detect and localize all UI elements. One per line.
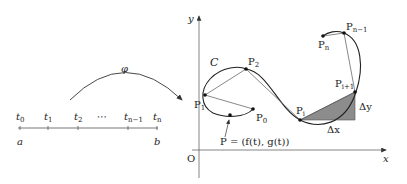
x-axis-label: x	[383, 153, 389, 164]
y-axis-label: y	[187, 13, 194, 24]
interval-end-label: b	[154, 136, 160, 147]
point-pi1-label: Pi+1	[335, 78, 354, 91]
parametric-curve-diagram: t0t1t2⋯tn−1tn a b φ y x O P0P1P2PiPi+1Pn…	[0, 0, 407, 184]
point-pi-label: Pi	[296, 105, 306, 118]
point-pn-label: Pn	[318, 39, 330, 52]
point-pn1-label: Pn−1	[346, 21, 368, 34]
parameter-tick-label: t0	[16, 111, 25, 124]
curve-label: C	[210, 56, 219, 69]
parameter-tick-label: ⋯	[96, 111, 106, 122]
parameter-tick-label: t2	[74, 111, 83, 124]
delta-x-label: Δx	[327, 124, 340, 135]
parameter-tick-label: tn	[153, 111, 162, 124]
mapping-label: φ	[121, 63, 128, 74]
point-p2-label: P2	[248, 56, 259, 69]
interval-start-label: a	[17, 136, 23, 147]
point-p2-dot	[244, 67, 248, 71]
parameter-tick-label: tn−1	[124, 111, 143, 124]
point-p0-dot	[251, 107, 255, 111]
point-p1-dot	[203, 93, 207, 97]
point-pi-dot	[298, 118, 302, 122]
origin-label: O	[187, 153, 195, 164]
point-p-dot	[228, 113, 232, 117]
point-p0-label: P0	[256, 112, 267, 125]
point-p-annotation: P = (f(t), g(t))	[220, 136, 289, 147]
parameter-tick-label: t1	[44, 111, 53, 124]
diagram-canvas: t0t1t2⋯tn−1tn a b φ y x O P0P1P2PiPi+1Pn…	[0, 0, 407, 184]
mapping-arrow	[70, 73, 182, 101]
delta-y-label: Δy	[359, 101, 372, 112]
point-pn-dot	[321, 34, 325, 38]
point-p-pointer	[225, 120, 229, 137]
